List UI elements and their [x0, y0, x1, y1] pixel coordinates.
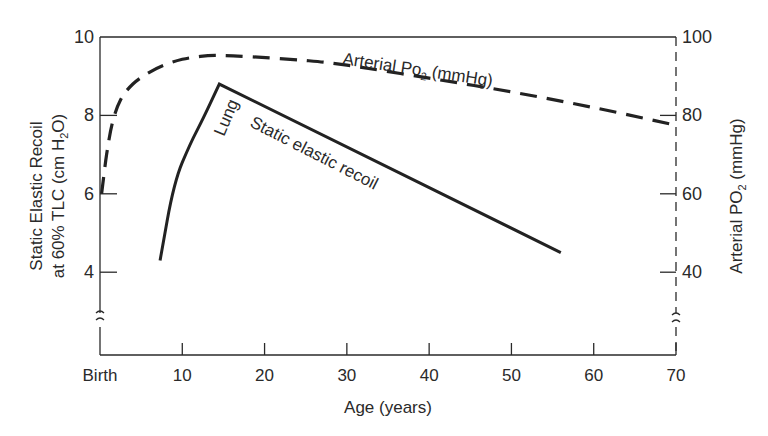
x-tick-label: 20	[255, 366, 274, 385]
axes	[96, 37, 680, 355]
po2-series-label: Arterial Po2 (mmHg)	[341, 49, 494, 92]
svg-text:Static Elastic Recoil: Static Elastic Recoil	[27, 121, 46, 270]
x-tick-label: Birth	[83, 366, 118, 385]
y2-tick-label: 60	[682, 184, 702, 204]
y2-tick-label: 100	[682, 27, 712, 47]
y-ticks: 46810	[74, 27, 117, 282]
right-axis-break-icon	[672, 313, 680, 322]
chart: Birth10203040506070 46810 406080100 Arte…	[0, 0, 768, 436]
x-ticks: Birth10203040506070	[83, 343, 686, 385]
x-axis-title: Age (years)	[344, 398, 432, 417]
y-tick-label: 6	[84, 184, 94, 204]
y-tick-label: 4	[84, 262, 94, 282]
po2-series-line	[102, 55, 676, 193]
x-tick-label: 40	[420, 366, 439, 385]
svg-text:Arterial PO2 (mmHg): Arterial PO2 (mmHg)	[727, 118, 748, 273]
lung-series-label: Lung	[210, 96, 242, 138]
x-tick-label: 10	[173, 366, 192, 385]
x-tick-label: 60	[584, 366, 603, 385]
x-tick-label: 70	[667, 366, 686, 385]
y-tick-label: 8	[84, 105, 94, 125]
x-tick-label: 30	[337, 366, 356, 385]
y2-ticks: 406080100	[660, 27, 712, 282]
y2-tick-label: 80	[682, 105, 702, 125]
y2-tick-label: 40	[682, 262, 702, 282]
svg-text:at 60% TLC (cm H2O): at 60% TLC (cm H2O)	[49, 114, 70, 279]
y2-axis-title: Arterial PO2 (mmHg)	[727, 118, 748, 273]
y-axis-title: Static Elastic Recoil at 60% TLC (cm H2O…	[27, 114, 70, 279]
x-tick-label: 50	[502, 366, 521, 385]
y-tick-label: 10	[74, 27, 94, 47]
